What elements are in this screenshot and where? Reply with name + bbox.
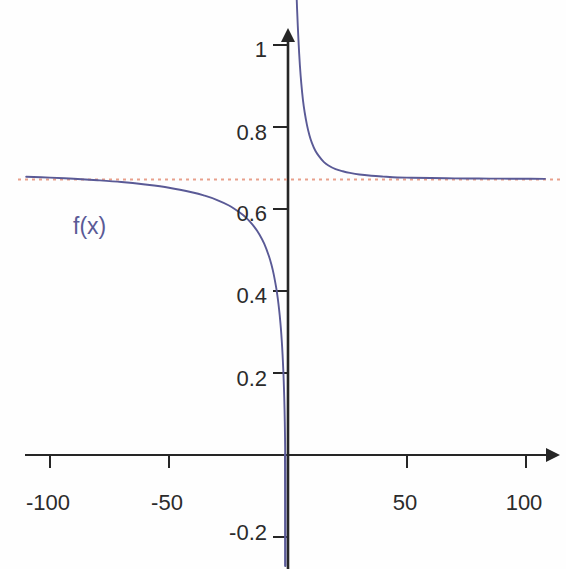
y-tick-label-0-8: 0.8 [212,120,267,146]
x-tick-label-50: 50 [378,490,432,516]
x-axis-arrow-icon [546,448,560,462]
y-axis-arrow-icon [281,28,295,42]
y-tick-label-0-6: 0.6 [212,201,267,227]
y-tick-label-1: 1 [212,37,267,63]
y-tick-label-neg-0-2: -0.2 [196,520,267,546]
y-tick-label-0-4: 0.4 [212,283,267,309]
x-tick-label-100: 100 [492,490,556,516]
curve-annotation-label: f(x) [73,213,106,240]
function-curve [26,0,545,566]
x-tick-label-neg-100: -100 [8,490,88,516]
y-tick-label-0-2: 0.2 [212,366,267,392]
y-axis [273,28,295,569]
x-axis [25,448,560,468]
x-tick-label-neg-50: -50 [132,490,202,516]
curve-right-branch [297,0,545,179]
chart-canvas: 1 0.8 0.6 0.4 0.2 -0.2 -100 -50 50 100 f… [0,0,566,569]
plot-area [0,0,566,569]
